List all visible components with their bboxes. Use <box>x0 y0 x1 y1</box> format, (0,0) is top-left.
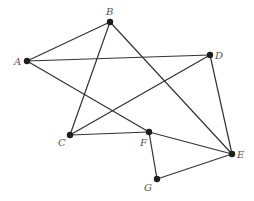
node-label-f: F <box>139 137 148 148</box>
node-b <box>107 19 113 25</box>
node-label-c: C <box>58 137 66 148</box>
node-label-a: A <box>13 56 21 67</box>
node-e <box>229 151 235 157</box>
node-d <box>207 52 213 58</box>
edge-f-g <box>149 132 157 179</box>
edge-c-f <box>70 132 149 135</box>
edges-group <box>27 22 232 179</box>
edge-c-d <box>70 55 210 135</box>
node-f <box>146 129 152 135</box>
edge-g-e <box>157 154 232 179</box>
node-label-b: B <box>105 6 113 17</box>
edge-f-e <box>149 132 232 154</box>
node-c <box>67 132 73 138</box>
edge-b-e <box>110 22 232 154</box>
graph-svg: ABCDEFG <box>0 0 254 201</box>
node-g <box>154 176 160 182</box>
node-label-d: D <box>214 50 223 61</box>
edge-a-b <box>27 22 110 61</box>
graph-diagram: ABCDEFG <box>0 0 254 201</box>
edge-d-e <box>210 55 232 154</box>
node-label-g: G <box>144 182 152 193</box>
node-a <box>24 58 30 64</box>
edge-b-c <box>70 22 110 135</box>
edge-a-d <box>27 55 210 61</box>
edge-a-f <box>27 61 149 132</box>
labels-group: ABCDEFG <box>13 6 245 193</box>
node-label-e: E <box>236 149 245 160</box>
